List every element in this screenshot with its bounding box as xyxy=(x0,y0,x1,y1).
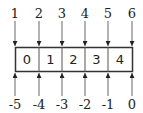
top-index-label: 4 xyxy=(81,6,89,21)
top-index-labels: 1 2 3 4 5 6 xyxy=(11,6,136,21)
top-index-label: 1 xyxy=(11,6,19,21)
cell-values: 0 1 2 3 4 xyxy=(23,52,124,67)
top-index-label: 6 xyxy=(128,6,136,21)
top-arrows xyxy=(15,21,132,46)
bottom-index-label: -2 xyxy=(79,97,92,112)
bottom-index-label: 0 xyxy=(128,97,136,112)
bottom-arrows xyxy=(15,73,132,96)
bottom-index-label: -5 xyxy=(9,97,22,112)
cell-3: 3 xyxy=(92,52,100,67)
cell-0: 0 xyxy=(23,52,31,67)
index-diagram: 0 1 2 3 4 1 2 3 4 5 6 -5 -4 -3 -2 -1 xyxy=(0,0,143,113)
top-index-label: 3 xyxy=(58,6,66,21)
top-index-label: 2 xyxy=(35,6,43,21)
cell-1: 1 xyxy=(46,52,54,67)
cell-2: 2 xyxy=(69,52,77,67)
bottom-index-labels: -5 -4 -3 -2 -1 0 xyxy=(9,97,136,112)
bottom-index-label: -3 xyxy=(56,97,69,112)
top-index-label: 5 xyxy=(104,6,112,21)
cell-4: 4 xyxy=(116,52,124,67)
bottom-index-label: -1 xyxy=(102,97,115,112)
bottom-index-label: -4 xyxy=(33,97,46,112)
